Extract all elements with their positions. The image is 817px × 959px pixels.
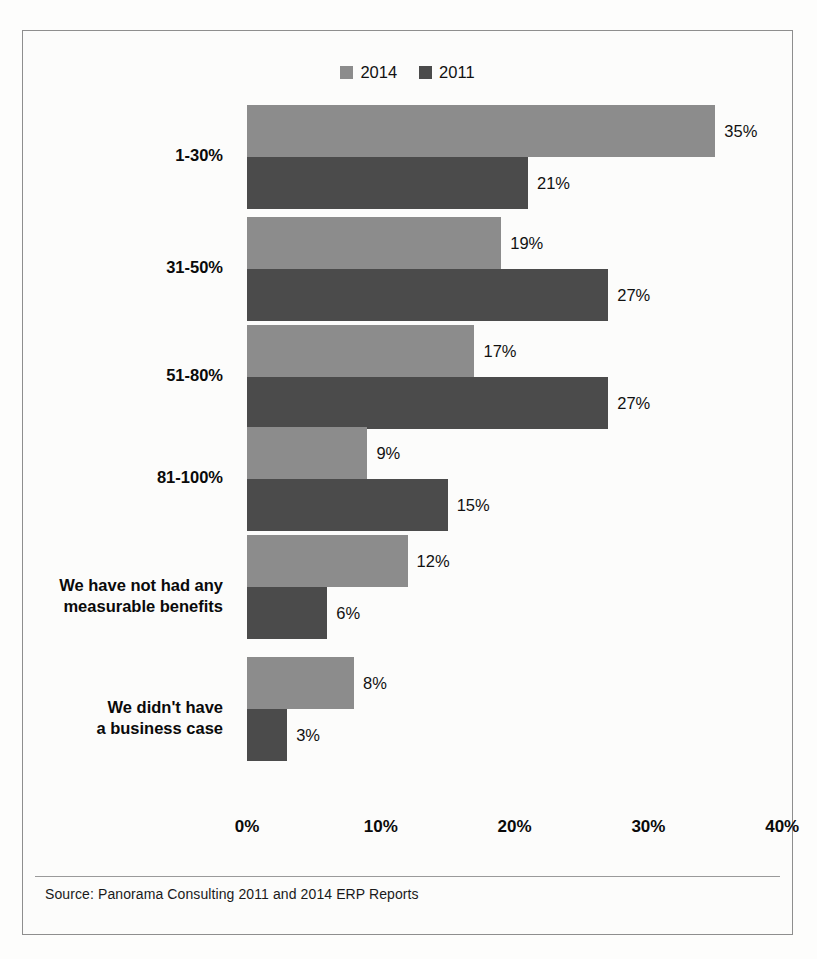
bar-2014 xyxy=(247,427,367,479)
source-note: Source: Panorama Consulting 2011 and 201… xyxy=(45,886,419,902)
legend-label: 2014 xyxy=(360,63,397,82)
bar-2011 xyxy=(247,587,327,639)
category-label: 51-80% xyxy=(13,365,223,386)
x-axis: 0%10%20%30%40% xyxy=(23,817,792,851)
bar-value-label: 19% xyxy=(501,234,543,253)
category-label: 1-30% xyxy=(13,145,223,166)
chart-frame: 20142011 1-30%35%21%31-50%19%27%51-80%17… xyxy=(22,30,793,935)
bar-value-label: 27% xyxy=(608,286,650,305)
bar-group: 51-80%17%27% xyxy=(23,325,792,431)
bar-2014 xyxy=(247,217,501,269)
scanned-page: 20142011 1-30%35%21%31-50%19%27%51-80%17… xyxy=(0,0,817,959)
category-label: 31-50% xyxy=(13,257,223,278)
bar-group: We have not had any measurable benefits1… xyxy=(23,535,792,641)
bar-value-label: 3% xyxy=(287,726,320,745)
bar-2011 xyxy=(247,709,287,761)
bar-row: 21% xyxy=(247,157,787,209)
bar-row: 17% xyxy=(247,325,787,377)
legend-label: 2011 xyxy=(439,63,474,82)
bar-value-label: 12% xyxy=(408,552,450,571)
bar-group: 1-30%35%21% xyxy=(23,105,792,211)
bar-row: 8% xyxy=(247,657,787,709)
category-label: We didn't have a business case xyxy=(13,697,223,739)
bar-2014 xyxy=(247,535,408,587)
bar-row: 27% xyxy=(247,377,787,429)
bar-2011 xyxy=(247,157,528,209)
bars-container: 9%15% xyxy=(225,427,785,531)
bar-value-label: 17% xyxy=(474,342,516,361)
bars-container: 12%6% xyxy=(225,535,785,639)
bar-value-label: 9% xyxy=(367,444,400,463)
bar-row: 9% xyxy=(247,427,787,479)
bars-container: 35%21% xyxy=(225,105,785,209)
bar-group: 81-100%9%15% xyxy=(23,427,792,533)
bar-row: 35% xyxy=(247,105,787,157)
bar-2014 xyxy=(247,105,715,157)
chart-legend: 20142011 xyxy=(23,63,792,82)
x-tick-label: 0% xyxy=(235,817,260,837)
cropped-text-sliver xyxy=(0,0,817,13)
legend-swatch-icon xyxy=(419,66,432,79)
legend-item-2014: 2014 xyxy=(340,63,397,82)
bar-row: 19% xyxy=(247,217,787,269)
bar-row: 12% xyxy=(247,535,787,587)
bars-container: 8%3% xyxy=(225,657,785,761)
bar-value-label: 15% xyxy=(448,496,490,515)
plot-area: 1-30%35%21%31-50%19%27%51-80%17%27%81-10… xyxy=(23,105,792,805)
legend-swatch-icon xyxy=(340,66,353,79)
bar-value-label: 21% xyxy=(528,174,570,193)
bar-group: 31-50%19%27% xyxy=(23,217,792,323)
bar-value-label: 27% xyxy=(608,394,650,413)
source-divider xyxy=(35,876,780,877)
category-label: 81-100% xyxy=(13,467,223,488)
x-tick-label: 30% xyxy=(631,817,665,837)
bar-2011 xyxy=(247,377,608,429)
bar-2014 xyxy=(247,657,354,709)
bar-row: 15% xyxy=(247,479,787,531)
bar-row: 3% xyxy=(247,709,787,761)
bar-row: 27% xyxy=(247,269,787,321)
x-tick-label: 10% xyxy=(364,817,398,837)
category-label: We have not had any measurable benefits xyxy=(13,575,223,617)
x-tick-label: 40% xyxy=(765,817,799,837)
bar-2014 xyxy=(247,325,474,377)
bar-value-label: 6% xyxy=(327,604,360,623)
bars-container: 17%27% xyxy=(225,325,785,429)
x-tick-label: 20% xyxy=(498,817,532,837)
bar-value-label: 8% xyxy=(354,674,387,693)
legend-item-2011: 2011 xyxy=(419,63,474,82)
bar-group: We didn't have a business case8%3% xyxy=(23,657,792,763)
bar-2011 xyxy=(247,269,608,321)
bar-value-label: 35% xyxy=(715,122,757,141)
bar-2011 xyxy=(247,479,448,531)
bars-container: 19%27% xyxy=(225,217,785,321)
bar-row: 6% xyxy=(247,587,787,639)
